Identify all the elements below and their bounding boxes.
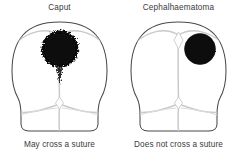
panel-caption-cephalhaematoma: Does not cross a suture <box>119 140 238 150</box>
panel-caput: Caput <box>0 0 119 159</box>
figure-root: Caput <box>0 0 238 159</box>
panel-title-caput: Caput <box>0 3 119 13</box>
panel-cephalhaematoma: Cephalhaematoma <box>119 0 238 159</box>
skull-diagram-caput <box>0 16 119 138</box>
panel-caption-caput: May cross a suture <box>0 140 119 150</box>
skull-diagram-cephalhaematoma <box>119 16 238 138</box>
panel-title-cephalhaematoma: Cephalhaematoma <box>119 3 238 13</box>
cephalhaematoma-swelling <box>185 34 216 65</box>
